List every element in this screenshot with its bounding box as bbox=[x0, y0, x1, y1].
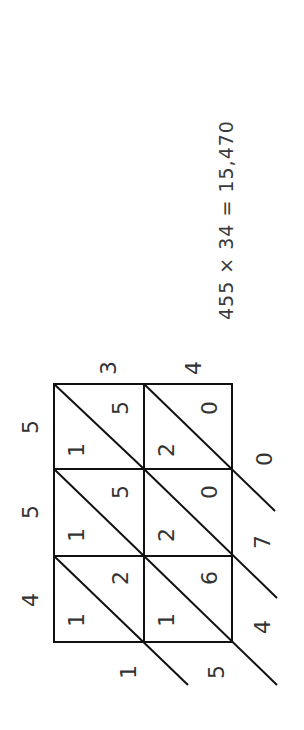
multiplicand-digit-2: 5 bbox=[18, 505, 43, 519]
result-digit-2: 5 bbox=[204, 665, 229, 679]
lattice-diagram: 455 × 34 = 15,470 3 4 5 5 4 1 5 2 0 1 5 … bbox=[0, 0, 304, 730]
multiplier-digit-2: 4 bbox=[181, 361, 206, 375]
cell-r2c2-tens: 2 bbox=[154, 528, 179, 542]
result-digit-4: 7 bbox=[250, 535, 275, 549]
cell-r3c2-tens: 1 bbox=[154, 613, 179, 627]
result-digit-1: 1 bbox=[116, 665, 141, 679]
cell-r2c1-ones: 5 bbox=[108, 485, 133, 499]
cell-r1c1-tens: 1 bbox=[64, 443, 89, 457]
cell-r3c2-ones: 6 bbox=[197, 571, 222, 585]
multiplicand-digit-3: 5 bbox=[18, 420, 43, 434]
cell-r1c1-ones: 5 bbox=[108, 401, 133, 415]
result-digit-5: 0 bbox=[252, 452, 277, 466]
cell-r2c1-tens: 1 bbox=[64, 528, 89, 542]
cell-r3c1-ones: 2 bbox=[108, 571, 133, 585]
equation-text: 455 × 34 = 15,470 bbox=[215, 120, 237, 320]
multiplier-digit-1: 3 bbox=[96, 361, 121, 375]
cell-r2c2-ones: 0 bbox=[197, 485, 222, 499]
cell-r3c1-tens: 1 bbox=[64, 613, 89, 627]
cell-r1c2-tens: 2 bbox=[154, 443, 179, 457]
result-digit-3: 4 bbox=[250, 620, 275, 634]
cell-r1c2-ones: 0 bbox=[197, 401, 222, 415]
multiplicand-digit-1: 4 bbox=[18, 593, 43, 607]
